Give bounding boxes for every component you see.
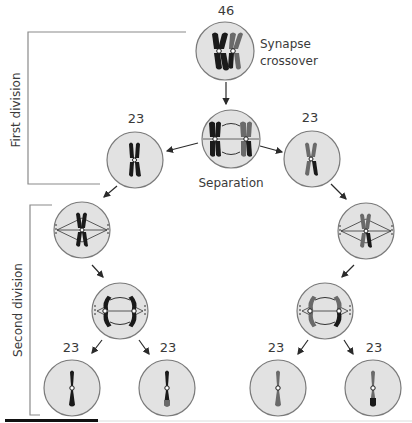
gamete-cell-3 [250,360,306,416]
bottom-rule-light [98,420,412,422]
arrow-r2b-to-g4 [344,340,353,354]
arrow-separation-to-left [167,143,198,151]
separation-caption: Separation [198,176,263,190]
first-left-count: 23 [128,111,145,126]
gamete-cell-4 [345,360,401,416]
arrow-separation-to-right [260,146,282,152]
bottom-rule [5,419,98,422]
cell-first-right [284,131,340,187]
arrow-l2b-to-g1 [92,340,102,353]
gamete-4-count: 23 [366,340,383,355]
arrow-r2b-to-g3 [298,340,308,354]
arrow-r2a-to-r2b [342,265,354,277]
arrow-right-to-r2a [331,184,346,199]
cell-first-left [107,132,163,188]
cell-second-right-metaphase [338,203,394,259]
arrow-l2a-to-l2b [92,265,103,277]
top-cell-count: 46 [218,3,235,18]
arrow-l2b-to-g2 [139,340,149,354]
cell-synapse [196,22,254,80]
gamete-cell-1 [44,360,100,416]
cell-separation [202,110,260,168]
cell-second-left-metaphase [54,202,110,258]
first-right-count: 23 [302,110,319,125]
gamete-cell-2 [139,360,195,416]
second-division-label: Second division [11,263,25,357]
synapse-caption-line1: Synapse [260,37,311,51]
cell-second-left-anaphase [92,283,148,339]
gamete-1-count: 23 [63,340,80,355]
synapse-caption-line2: crossover [260,54,318,68]
gamete-2-count: 23 [160,340,177,355]
first-division-label: First division [9,73,23,148]
cell-second-right-anaphase [297,283,353,339]
meiosis-diagram: First division Second division 46 Synaps… [0,0,412,423]
arrow-left-to-l2a [104,186,117,197]
gamete-3-count: 23 [268,340,285,355]
